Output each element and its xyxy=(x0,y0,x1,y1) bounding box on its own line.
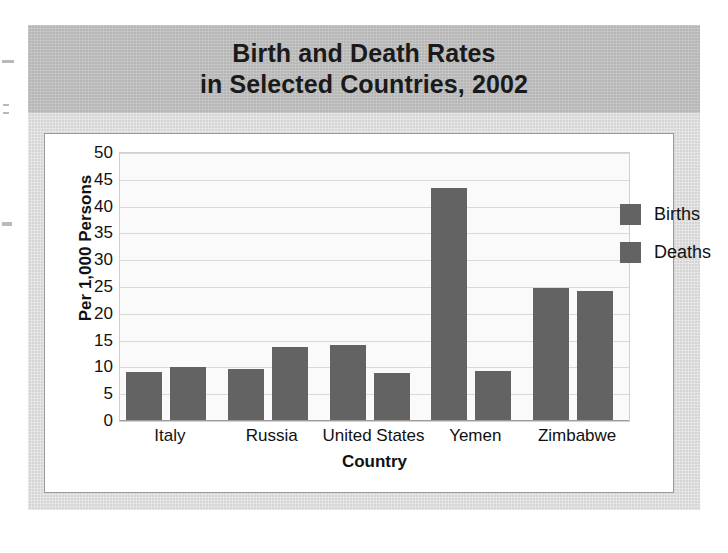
page-edge-mark xyxy=(3,104,9,106)
legend-item: Births xyxy=(620,195,711,233)
y-tick-label: 35 xyxy=(79,224,113,241)
y-tick-label: 20 xyxy=(79,305,113,322)
bar-births xyxy=(126,372,162,421)
page-edge-mark xyxy=(2,222,12,226)
chart-title-line-2: in Selected Countries, 2002 xyxy=(200,69,528,100)
x-tick-label: Zimbabwe xyxy=(506,426,648,446)
bar-births xyxy=(533,288,569,421)
bar-deaths xyxy=(577,291,613,421)
y-tick-label: 25 xyxy=(79,278,113,295)
y-tick-label: 15 xyxy=(79,332,113,349)
bar-deaths xyxy=(272,347,308,422)
y-tick-label: 40 xyxy=(79,198,113,215)
chart-card: Per 1,000 Persons 50454035302520151050 B… xyxy=(44,133,674,493)
x-axis-title: Country xyxy=(119,452,630,472)
y-tick-label: 30 xyxy=(79,251,113,268)
y-tick-label: 50 xyxy=(79,144,113,161)
bar-group xyxy=(425,153,527,421)
bar-deaths xyxy=(374,373,410,421)
bar-group xyxy=(324,153,426,421)
bar-births xyxy=(228,369,264,421)
bar-deaths xyxy=(170,367,206,421)
bar-births xyxy=(330,345,366,421)
chart-title-band: Birth and Death Rates in Selected Countr… xyxy=(28,25,700,113)
legend-item: Deaths xyxy=(620,233,711,271)
page-edge-mark xyxy=(2,60,14,63)
y-tick-label: 45 xyxy=(79,171,113,188)
x-axis-tick-labels: ItalyRussiaUnited StatesYemenZimbabwe xyxy=(119,426,630,450)
page-edge-mark xyxy=(3,112,9,114)
chart-figure: Birth and Death Rates in Selected Countr… xyxy=(0,0,728,553)
bar-births xyxy=(431,188,467,421)
legend-label-deaths: Deaths xyxy=(654,242,711,263)
legend-swatch-deaths-icon xyxy=(620,242,641,263)
y-tick-label: 10 xyxy=(79,358,113,375)
legend-label-births: Births xyxy=(654,204,700,225)
bar-groups xyxy=(120,153,629,421)
bar-group xyxy=(527,153,629,421)
y-axis-tick-labels: 50454035302520151050 xyxy=(73,152,113,422)
bar-deaths xyxy=(475,371,511,421)
plot-area: Births Deaths xyxy=(119,152,630,422)
bar-group xyxy=(120,153,222,421)
x-axis-line xyxy=(120,420,629,421)
y-tick-label: 5 xyxy=(79,385,113,402)
legend-swatch-births-icon xyxy=(620,204,641,225)
chart-title-line-1: Birth and Death Rates xyxy=(232,38,495,69)
bar-group xyxy=(222,153,324,421)
legend: Births Deaths xyxy=(620,195,711,271)
